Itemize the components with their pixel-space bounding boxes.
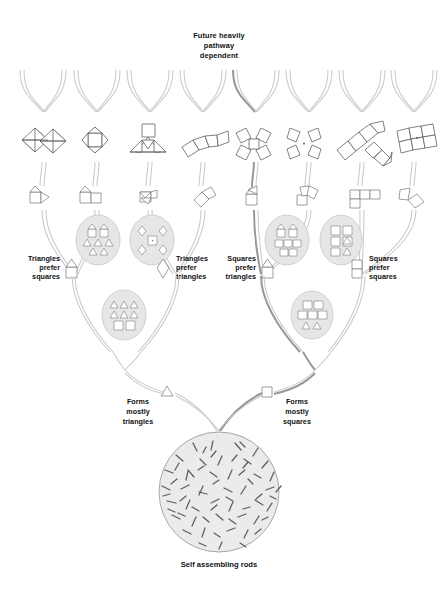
cluster-sq-sq (320, 215, 362, 265)
small-assembly-8 (399, 188, 424, 208)
small-assembly-5 (246, 186, 257, 205)
cluster-tri-sq (76, 215, 120, 265)
assembly-1 (22, 128, 66, 153)
label-tps-line-2: prefer (39, 263, 60, 272)
self-assembly-tree-diagram: Future heavily pathway dependent (0, 0, 438, 593)
label-spt-line-1: Squares (227, 254, 256, 263)
small-assembly-6 (297, 186, 318, 205)
label-tps-line-3: squares (32, 272, 60, 281)
small-assembly-4 (194, 187, 216, 207)
top-title-line-2: pathway (204, 41, 235, 50)
label-sps-line-3: squares (369, 272, 397, 281)
cluster-mixed-right (291, 291, 333, 339)
double-square-icon (352, 260, 362, 278)
small-assembly-7 (350, 190, 380, 208)
cluster-mixed-left (102, 290, 146, 340)
cluster-sq-tri (265, 215, 309, 265)
label-tpt-line-2: prefer (176, 263, 197, 272)
self-assembling-rods-circle (159, 432, 281, 552)
outcome-fmt-line-3: triangles (123, 417, 153, 426)
outcome-fms-line-2: mostly (285, 407, 308, 416)
house-up-icon (66, 259, 77, 278)
top-title: Future heavily pathway dependent (193, 31, 245, 60)
bottom-caption: Self assembling rods (181, 560, 257, 569)
branch-level-2-group (40, 162, 416, 186)
label-sps-line-2: prefer (369, 263, 390, 272)
label-tpt-line-1: Triangles (176, 254, 208, 263)
outcome-forms-mostly-squares: Forms mostly squares (262, 387, 311, 426)
outcome-fms-line-1: Forms (286, 397, 308, 406)
label-spt-line-2: prefer (235, 263, 256, 272)
branch-level-1-group (20, 70, 437, 112)
assembly-8 (397, 124, 437, 153)
outcome-fmt-line-2: mostly (126, 407, 149, 416)
small-assembly-3 (140, 190, 157, 204)
assembly-2 (82, 127, 108, 153)
small-assembly-2 (80, 186, 101, 203)
small-assembly-1 (30, 186, 49, 203)
label-spt-line-3: triangles (226, 272, 256, 281)
label-tps-line-1: Triangles (28, 254, 60, 263)
outcome-forms-mostly-triangles: Forms mostly triangles (123, 386, 173, 426)
label-squares-prefer-squares: Squares prefer squares (352, 254, 398, 281)
label-sps-line-1: Squares (369, 254, 398, 263)
top-title-line-3: dependent (200, 51, 239, 60)
assembly-5 (236, 128, 271, 160)
house-up-icon-2 (262, 259, 273, 278)
label-tpt-line-3: triangles (176, 272, 206, 281)
label-triangles-prefer-squares: Triangles prefer squares (28, 254, 77, 281)
assembly-3 (130, 124, 166, 152)
assembly-7 (337, 121, 392, 166)
outcome-fmt-line-1: Forms (127, 397, 149, 406)
assembly-6 (287, 128, 321, 159)
outcome-fms-line-3: squares (283, 417, 311, 426)
label-squares-prefer-triangles: Squares prefer triangles (226, 254, 273, 281)
top-title-line-1: Future heavily (193, 31, 245, 40)
diagram-canvas: Future heavily pathway dependent (0, 0, 438, 593)
cluster-tri-tri (130, 215, 174, 265)
assembly-4 (182, 131, 229, 157)
